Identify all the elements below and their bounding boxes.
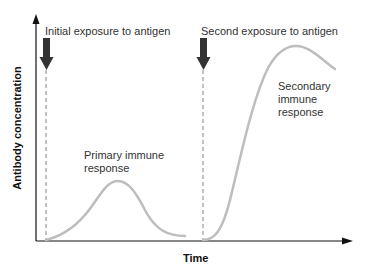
secondary-response-label: Secondary immune response: [278, 80, 331, 119]
immune-response-diagram: [0, 0, 365, 274]
secondary-response-label-line3: response: [278, 106, 331, 119]
secondary-response-label-line1: Secondary: [278, 80, 331, 93]
initial-exposure-arrow-icon: [40, 38, 54, 70]
primary-response-label-line2: response: [84, 162, 164, 175]
y-axis-label: Antibody concentration: [11, 66, 23, 189]
y-axis-arrow-icon: [33, 14, 40, 24]
secondary-response-curve: [203, 46, 335, 240]
initial-exposure-label: Initial exposure to antigen: [45, 25, 170, 38]
x-axis-label: Time: [183, 252, 208, 264]
x-axis-arrow-icon: [342, 238, 353, 245]
second-exposure-arrow-icon: [197, 38, 211, 70]
secondary-response-label-line2: immune: [278, 93, 331, 106]
primary-response-curve: [46, 181, 185, 240]
primary-response-label-line1: Primary immune: [84, 149, 164, 162]
primary-response-label: Primary immune response: [84, 149, 164, 175]
second-exposure-label: Second exposure to antigen: [201, 25, 338, 38]
